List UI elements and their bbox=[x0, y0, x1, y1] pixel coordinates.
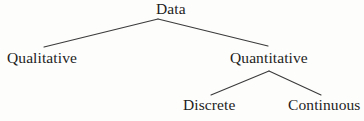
tree-node-qualitative: Qualitative bbox=[7, 50, 77, 66]
edge-data-to-quantitative bbox=[158, 19, 268, 46]
tree-node-data: Data bbox=[156, 1, 186, 17]
tree-node-continuous: Continuous bbox=[288, 97, 360, 113]
tree-node-quantitative: Quantitative bbox=[230, 50, 308, 66]
data-classification-tree-diagram: Data Qualitative Quantitative Discrete C… bbox=[0, 0, 364, 121]
edge-data-to-qualitative bbox=[44, 19, 158, 47]
edge-quantitative-to-discrete bbox=[211, 71, 269, 95]
edge-quantitative-to-continuous bbox=[269, 71, 321, 95]
tree-node-discrete: Discrete bbox=[183, 97, 235, 113]
